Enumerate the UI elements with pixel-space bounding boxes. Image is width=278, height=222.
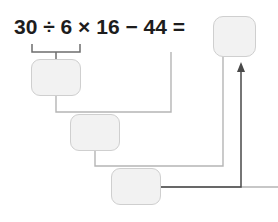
operand-1: 30	[14, 15, 37, 38]
operand-4: 44	[144, 15, 167, 38]
operand-2: 6	[61, 15, 73, 38]
arrow-to-answer	[161, 62, 245, 187]
answer-box-final[interactable]	[213, 16, 256, 57]
order-of-operations-worksheet: 30 ÷ 6 × 16 − 44 =	[0, 0, 278, 222]
answer-box-step2[interactable]	[70, 114, 120, 151]
equals-sign: =	[173, 15, 185, 38]
operator-minus-icon: −	[125, 15, 137, 38]
operator-divide-icon: ÷	[43, 15, 55, 38]
answer-box-step3[interactable]	[111, 168, 161, 205]
arrowhead-icon	[237, 62, 245, 72]
answer-box-step1[interactable]	[31, 59, 81, 96]
equation-expression: 30 ÷ 6 × 16 − 44 =	[14, 14, 185, 40]
operator-multiply-icon: ×	[78, 15, 90, 38]
bracket-division-group	[32, 44, 80, 52]
operand-3: 16	[96, 15, 119, 38]
